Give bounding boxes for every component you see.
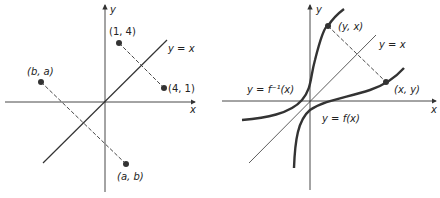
x-axis-label: x <box>430 104 437 115</box>
point-4-1 <box>161 85 167 91</box>
reflection-diagrams: y x y = x (1, 4) (4, 1) (b, a) (a, b) y … <box>0 0 440 198</box>
y-axis-label: y <box>109 4 117 15</box>
point-b-a <box>38 79 44 85</box>
right-diagram: y x y = x y = f⁻¹(x) y = f(x) (y, x) (x,… <box>222 4 437 190</box>
point-label-b-a: (b, a) <box>27 66 54 77</box>
point-label-4-1: (4, 1) <box>168 83 195 94</box>
point-label-y-x: (y, x) <box>338 21 363 32</box>
function-label: y = f(x) <box>321 113 360 124</box>
point-y-x <box>325 23 331 29</box>
y-axis-label: y <box>315 4 323 15</box>
x-axis-label: x <box>189 104 196 115</box>
point-1-4 <box>116 40 122 46</box>
point-label-a-b: (a, b) <box>117 171 144 182</box>
point-label-1-4: (1, 4) <box>109 26 136 37</box>
line-y-equals-x <box>249 35 376 163</box>
left-diagram: y x y = x (1, 4) (4, 1) (b, a) (a, b) <box>5 4 196 192</box>
inverse-function-label: y = f⁻¹(x) <box>246 84 294 95</box>
point-x-y <box>383 79 389 85</box>
point-a-b <box>123 161 129 167</box>
line-label: y = x <box>378 39 406 50</box>
point-label-x-y: (x, y) <box>394 84 420 95</box>
line-label: y = x <box>167 43 195 54</box>
